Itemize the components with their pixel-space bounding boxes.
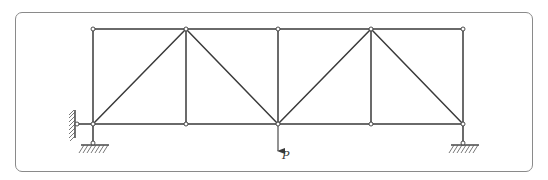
node-B3 bbox=[369, 122, 373, 126]
node-B4 bbox=[461, 122, 465, 126]
load-label: P bbox=[282, 149, 289, 162]
node-T2 bbox=[276, 27, 280, 31]
right-ground-support bbox=[449, 124, 479, 153]
node-T0 bbox=[91, 27, 95, 31]
diagonal-member-0 bbox=[93, 29, 186, 124]
diagonal-member-1 bbox=[186, 29, 278, 124]
diagonal-member-3 bbox=[371, 29, 463, 124]
node-T3 bbox=[369, 27, 373, 31]
node-T4 bbox=[461, 27, 465, 31]
diagonal-member-2 bbox=[278, 29, 371, 124]
node-B2 bbox=[276, 122, 280, 126]
truss-members bbox=[93, 29, 463, 124]
truss-diagram bbox=[0, 0, 548, 180]
node-B0 bbox=[91, 122, 95, 126]
left-wall-support bbox=[69, 110, 93, 141]
left-ground-support bbox=[79, 124, 109, 153]
node-T1 bbox=[184, 27, 188, 31]
node-B1 bbox=[184, 122, 188, 126]
